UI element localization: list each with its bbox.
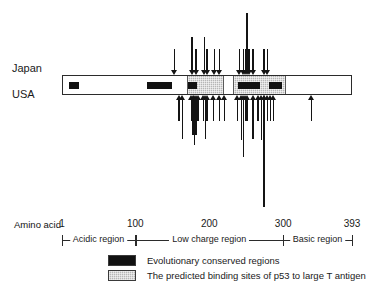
arrow-shaft xyxy=(270,100,271,121)
conserved-region-box xyxy=(69,82,79,89)
region-bracket-cap xyxy=(283,235,284,246)
arrow-shaft xyxy=(252,100,253,139)
arrow-shaft xyxy=(213,100,214,121)
arrow-shaft xyxy=(311,100,312,121)
arrow-shaft xyxy=(224,100,225,121)
arrow-shaft xyxy=(203,100,204,121)
japan-row-label: Japan xyxy=(12,62,42,74)
arrow-shaft xyxy=(246,13,247,70)
arrow-shaft xyxy=(263,49,264,70)
region-bracket-cap xyxy=(352,235,353,246)
arrow-head xyxy=(216,70,222,75)
arrow-head xyxy=(204,95,210,100)
binding-site-swatch xyxy=(108,270,136,281)
arrow-head xyxy=(221,95,227,100)
region-label: Acidic region xyxy=(70,234,128,244)
arrow-shaft xyxy=(178,100,179,121)
conserved-region-box xyxy=(147,82,172,89)
axis-tick-label: 200 xyxy=(201,218,218,229)
arrow-shaft xyxy=(261,100,262,140)
arrow-shaft xyxy=(246,100,247,121)
region-bracket-cap xyxy=(62,235,63,246)
axis-tick-label: 100 xyxy=(127,218,144,229)
legend: Evolutionary conserved regions The predi… xyxy=(108,253,366,283)
arrow-shaft xyxy=(267,100,268,121)
region-brackets: Acidic regionLow charge regionBasic regi… xyxy=(0,233,370,249)
arrow-shaft xyxy=(191,37,192,70)
arrow-shaft xyxy=(252,49,253,70)
arrow-shaft xyxy=(214,49,215,70)
arrow-head xyxy=(204,70,210,75)
arrow-head xyxy=(308,95,314,100)
arrow-head xyxy=(264,70,270,75)
arrow-head xyxy=(179,95,185,100)
conserved-region-box xyxy=(269,82,282,89)
legend-item-label: Evolutionary conserved regions xyxy=(147,255,280,266)
legend-item-label: The predicted binding sites of p53 to la… xyxy=(147,270,366,281)
arrow-shaft xyxy=(243,49,244,70)
arrow-shaft xyxy=(273,100,274,121)
arrow-head xyxy=(270,95,276,100)
region-bracket-cap xyxy=(135,235,136,246)
legend-item: Evolutionary conserved regions xyxy=(108,253,366,268)
arrow-head xyxy=(250,70,256,75)
arrow-shaft xyxy=(263,100,264,207)
arrow-head xyxy=(171,70,177,75)
legend-item: The predicted binding sites of p53 to la… xyxy=(108,268,366,283)
arrow-shaft xyxy=(257,100,258,121)
arrow-head xyxy=(261,95,267,100)
region-label: Low charge region xyxy=(169,234,249,244)
arrow-shaft xyxy=(197,100,198,121)
arrow-shaft xyxy=(239,49,240,70)
arrow-shaft xyxy=(219,49,220,70)
axis-title: Amino acid xyxy=(14,219,61,230)
conserved-region-box xyxy=(188,82,197,89)
arrow-shaft xyxy=(174,49,175,70)
region-label: Basic region xyxy=(290,234,346,244)
arrow-shaft xyxy=(237,100,238,121)
axis-tick-label: 300 xyxy=(275,218,292,229)
arrow-shaft xyxy=(248,49,249,70)
arrow-shaft xyxy=(219,100,220,121)
arrow-shaft xyxy=(195,100,196,135)
arrow-shaft xyxy=(206,100,207,121)
conserved-region-swatch xyxy=(108,255,136,266)
arrow-shaft xyxy=(206,49,207,70)
arrow-shaft xyxy=(182,100,183,139)
arrow-shaft xyxy=(243,100,244,157)
arrow-shaft xyxy=(204,37,205,70)
protein-schematic-bar xyxy=(62,75,352,95)
conserved-region-box xyxy=(238,82,260,89)
figure-canvas: Japan USA 1100200300393 Amino acid Acidi… xyxy=(0,0,370,290)
usa-row-label: USA xyxy=(12,88,35,100)
arrow-shaft xyxy=(195,49,196,70)
axis-tick-label: 393 xyxy=(344,218,361,229)
arrow-shaft xyxy=(267,49,268,70)
arrow-head xyxy=(193,70,199,75)
